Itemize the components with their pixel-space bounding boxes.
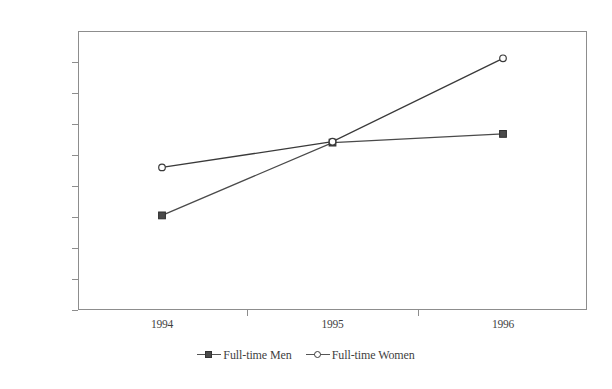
legend-item-2[interactable]: Full-time Women: [306, 346, 415, 363]
y-tick-mark: [72, 186, 78, 187]
square-marker-icon: [197, 350, 221, 360]
x-tick-label: 1996: [463, 318, 543, 330]
x-tick-label: 1994: [122, 318, 202, 330]
y-tick-mark: [72, 248, 78, 249]
y-tick-mark: [72, 217, 78, 218]
circle-marker-icon: [306, 350, 330, 360]
y-tick-mark: [72, 310, 78, 311]
y-tick-mark: [72, 62, 78, 63]
y-tick-mark: [72, 279, 78, 280]
legend-label: Full-time Men: [223, 347, 291, 363]
y-tick-mark: [72, 124, 78, 125]
chart-legend: Full-time MenFull-time Women: [0, 345, 612, 363]
y-tick-mark: [72, 93, 78, 94]
plot-area: [78, 31, 587, 310]
x-tick-mark: [418, 310, 419, 316]
y-tick-mark: [72, 155, 78, 156]
legend-item-1[interactable]: Full-time Men: [197, 346, 291, 363]
line-chart: 5900005800005700005600005500005400005300…: [0, 0, 612, 389]
x-tick-label: 1995: [293, 318, 373, 330]
x-tick-mark: [247, 310, 248, 316]
legend-label: Full-time Women: [332, 347, 415, 363]
